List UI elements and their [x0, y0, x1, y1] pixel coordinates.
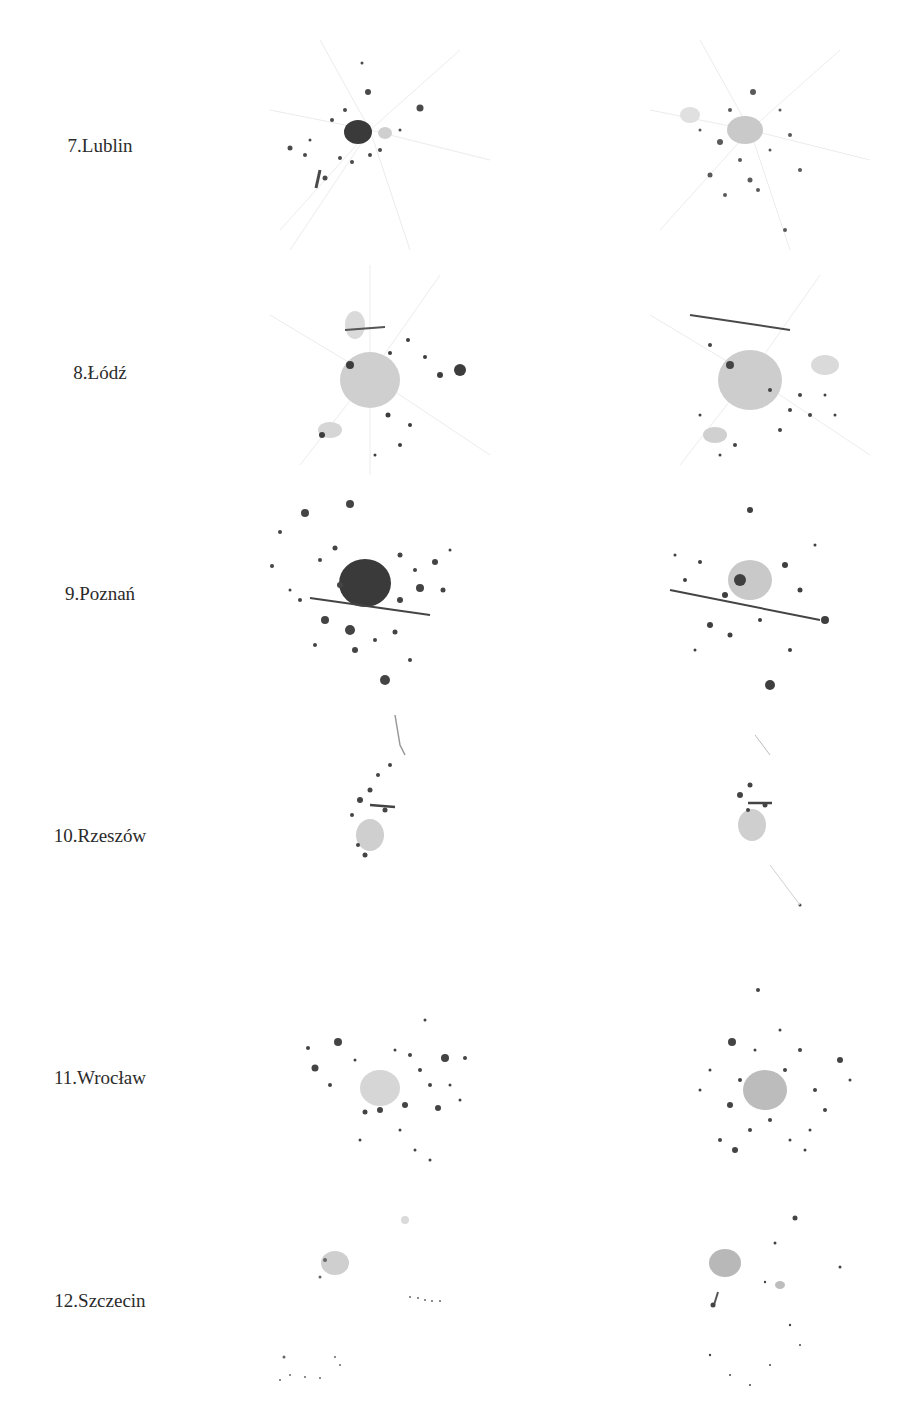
map-left-rzeszow	[260, 705, 500, 935]
figure-row-lodz: 8.Łódź	[0, 255, 901, 485]
city-label: 12.Szczecin	[0, 1290, 200, 1312]
city-label: 9.Poznań	[0, 583, 200, 605]
city-label: 10.Rzeszów	[0, 825, 200, 847]
map-right-lublin	[640, 30, 880, 260]
map-right-poznan	[640, 480, 880, 710]
city-label: 11.Wrocław	[0, 1067, 200, 1089]
map-left-lodz	[260, 255, 500, 485]
city-label: 7.Lublin	[0, 135, 200, 157]
figure-row-poznan: 9.Poznań	[0, 480, 901, 710]
figure-row-szczecin: 12.Szczecin	[0, 1185, 901, 1412]
figure-row-rzeszow: 10.Rzeszów	[0, 705, 901, 935]
figure-row-wroclaw: 11.Wrocław	[0, 960, 901, 1190]
map-left-szczecin	[260, 1185, 500, 1412]
map-right-rzeszow	[640, 705, 880, 935]
map-left-wroclaw	[260, 960, 500, 1190]
map-right-lodz	[640, 255, 880, 485]
map-right-szczecin	[640, 1185, 880, 1412]
map-right-wroclaw	[640, 960, 880, 1190]
figure-row-lublin: 7.Lublin	[0, 30, 901, 260]
map-left-lublin	[260, 30, 500, 260]
map-left-poznan	[260, 480, 500, 710]
city-label: 8.Łódź	[0, 362, 200, 384]
